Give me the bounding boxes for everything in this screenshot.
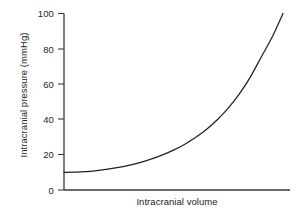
y-tick-label-80: 80 (34, 45, 54, 55)
y-tick-label-40: 40 (34, 115, 54, 125)
y-tick-label-60: 60 (34, 80, 54, 90)
y-axis-ticks (58, 14, 64, 191)
data-series-group (64, 14, 283, 173)
axes-group (58, 14, 290, 191)
chart-plot-svg (0, 0, 296, 212)
chart-container: 100 80 60 40 20 0 Intracranial pressure … (0, 0, 296, 212)
y-tick-label-20: 20 (34, 150, 54, 160)
x-axis-label: Intracranial volume (64, 195, 290, 208)
y-tick-label-0: 0 (34, 186, 54, 196)
y-tick-label-100: 100 (34, 9, 54, 19)
y-axis-label: Intracranial pressure (mmHg) (16, 0, 32, 190)
pressure-volume-curve (64, 14, 283, 173)
